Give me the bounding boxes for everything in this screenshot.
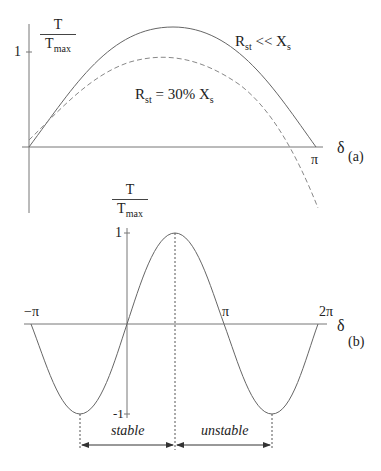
panel-a-x-axis-label: δ — [337, 140, 345, 156]
unstable-arrow-right-head — [263, 442, 271, 448]
label-main: R — [235, 33, 245, 49]
panel-b-x-tick-neg-pi: −π — [24, 305, 39, 319]
den-main: T — [45, 36, 54, 51]
curve-label-rst-30pct: Rst = 30% Xs — [135, 87, 214, 105]
panel-a-panel-label: (a) — [348, 150, 364, 164]
panel-a-x-tick-pi: π — [311, 153, 318, 167]
label-sub: st — [145, 94, 152, 105]
unstable-arrow-left-head — [176, 442, 184, 448]
den-sub: max — [54, 43, 71, 54]
curve-label-rst-small: Rst << Xs — [235, 34, 291, 52]
label-rel: = 30% X — [152, 86, 210, 102]
panel-b-x-tick-pi: π — [222, 305, 229, 319]
den-sub: max — [126, 208, 143, 219]
label-sub: st — [245, 41, 252, 52]
y-label-denominator: Tmax — [40, 35, 76, 54]
label-main: R — [135, 86, 145, 102]
den-main: T — [117, 201, 126, 216]
panel-b-x-axis-label: δ — [337, 318, 345, 334]
panel-a-curve-rst-30pct — [29, 57, 318, 208]
label-rel-sub: s — [287, 41, 291, 52]
y-label-numerator: T — [40, 18, 76, 34]
panel-b-x-tick-2pi: 2π — [319, 305, 333, 319]
region-label-stable: stable — [111, 424, 144, 438]
panel-b-y-axis-label: T Tmax — [112, 183, 148, 219]
torque-angle-diagram — [0, 0, 381, 471]
stable-arrow-right-head — [166, 442, 174, 448]
panel-b-panel-label: (b) — [348, 335, 364, 349]
panel-a-y-tick-label: 1 — [14, 45, 21, 59]
label-rel-sub: s — [210, 94, 214, 105]
label-rel: << X — [252, 33, 287, 49]
region-label-unstable: unstable — [201, 424, 248, 438]
y-label-denominator: Tmax — [112, 200, 148, 219]
stable-arrow-left-head — [81, 442, 89, 448]
panel-b-y-tick-top-label: 1 — [115, 226, 122, 240]
y-label-numerator: T — [112, 183, 148, 199]
panel-b-y-tick-bottom-label: -1 — [113, 407, 124, 420]
panel-a-y-axis-label: T Tmax — [40, 18, 76, 54]
